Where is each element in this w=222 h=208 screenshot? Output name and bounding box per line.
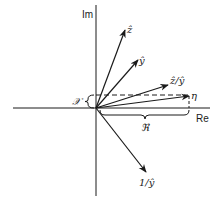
real-axis-label: Re [196,113,209,124]
vector-z-hat [96,30,125,108]
resistance-label: ℜ [141,122,150,133]
label-y-hat: ŷ [138,55,145,66]
resistance-brace [100,110,189,119]
label-z-over-y: ẑ/ŷ [169,75,185,86]
label-eta: η [191,90,197,101]
imag-axis-label: Im [82,9,93,20]
label-z-hat: ẑ [126,24,133,35]
phasor-diagram: Im Re ẑ ŷ ẑ/ŷ η 1/ŷ 𝒳 ℜ [0,0,222,208]
label-one-over-y: 1/ŷ [139,177,155,188]
vector-eta [96,96,189,108]
vector-one-over-y [96,108,146,172]
reactance-brace [85,95,94,108]
reactance-label: 𝒳 [72,96,84,107]
